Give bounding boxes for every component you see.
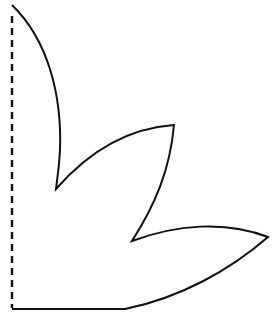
diagram-canvas xyxy=(0,0,274,320)
leaf-outline xyxy=(12,5,268,309)
leaf-template-drawing xyxy=(0,0,274,320)
